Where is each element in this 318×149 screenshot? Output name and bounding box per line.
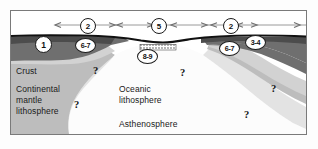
layer-marker-6-7-right[interactable]: 6-7: [219, 41, 240, 56]
uncertainty-marker-right-lower: ?: [244, 109, 249, 120]
label-oceanic-lithosphere-line2: lithosphere: [119, 95, 162, 106]
label-asthenosphere: Asthenosphere: [119, 119, 177, 130]
figure-canvas: Crust Continental mantle lithosphere Oce…: [0, 0, 318, 149]
layer-marker-8-9[interactable]: 8-9: [137, 49, 158, 64]
uncertainty-marker-center: ?: [180, 67, 185, 78]
uncertainty-marker-right-upper: ?: [271, 83, 276, 94]
label-oceanic-lithosphere-line1: Oceanic: [119, 84, 151, 95]
label-continental-mantle-lithosphere-line1: Continental: [16, 84, 60, 95]
layer-marker-1[interactable]: 1: [35, 36, 52, 53]
uncertainty-marker-left-upper: ?: [93, 65, 98, 76]
layer-marker-3-4[interactable]: 3-4: [245, 35, 266, 50]
scale-marker-2-right[interactable]: 2: [223, 18, 239, 34]
uncertainty-marker-left-lower: ?: [74, 99, 79, 110]
layer-marker-6-7-left[interactable]: 6-7: [75, 38, 96, 53]
scale-marker-2-left[interactable]: 2: [80, 18, 96, 34]
label-continental-mantle-lithosphere-line2: mantle: [16, 95, 42, 106]
cross-section-frame: Crust Continental mantle lithosphere Oce…: [10, 10, 307, 135]
scale-marker-5-center[interactable]: 5: [151, 18, 167, 34]
label-continental-mantle-lithosphere-line3: lithosphere: [16, 106, 59, 117]
label-crust: Crust: [16, 66, 37, 77]
